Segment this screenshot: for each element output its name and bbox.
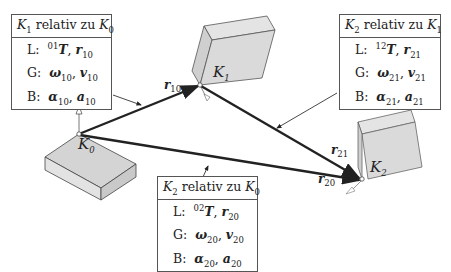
row-beschleunigung: B: α20, a20 <box>158 248 257 272</box>
info-box-k1-relative-k0: K1 relativ zu K0 L: 01T, r10 G: ω10, v10… <box>11 14 112 110</box>
vector-label-r10: r10 <box>164 78 181 94</box>
row-beschleunigung: B: α21, a21 <box>340 86 440 110</box>
frame-label-k1: K1 <box>213 63 230 83</box>
box-title: K2 relativ zu K1 <box>340 15 440 38</box>
row-lage: L: 02T, r20 <box>158 200 257 225</box>
info-box-k2-relative-k0: K2 relativ zu K0 L: 02T, r20 G: ω20, v20… <box>157 176 258 272</box>
row-geschwindigkeit: G: ω20, v20 <box>158 224 257 248</box>
leader-k1-k0 <box>113 95 141 105</box>
row-geschwindigkeit: G: ω10, v10 <box>12 62 111 86</box>
body-k2 <box>346 110 422 194</box>
info-box-k2-relative-k1: K2 relativ zu K1 L: 12T, r21 G: ω21, v21… <box>339 14 441 110</box>
row-lage: L: 12T, r21 <box>340 38 440 63</box>
box-title: K1 relativ zu K0 <box>12 15 111 38</box>
vector-label-r21: r21 <box>331 143 348 159</box>
box-title: K2 relativ zu K0 <box>158 177 257 200</box>
row-geschwindigkeit: G: ω21, v21 <box>340 62 440 86</box>
vector-r21 <box>201 86 359 178</box>
frame-label-k0: K0 <box>78 135 95 155</box>
vector-label-r20: r20 <box>318 172 335 188</box>
frame-label-k2: K2 <box>370 158 387 178</box>
leader-k2-k1 <box>277 93 337 128</box>
row-beschleunigung: B: α10, a10 <box>12 86 111 110</box>
row-lage: L: 01T, r10 <box>12 38 111 63</box>
